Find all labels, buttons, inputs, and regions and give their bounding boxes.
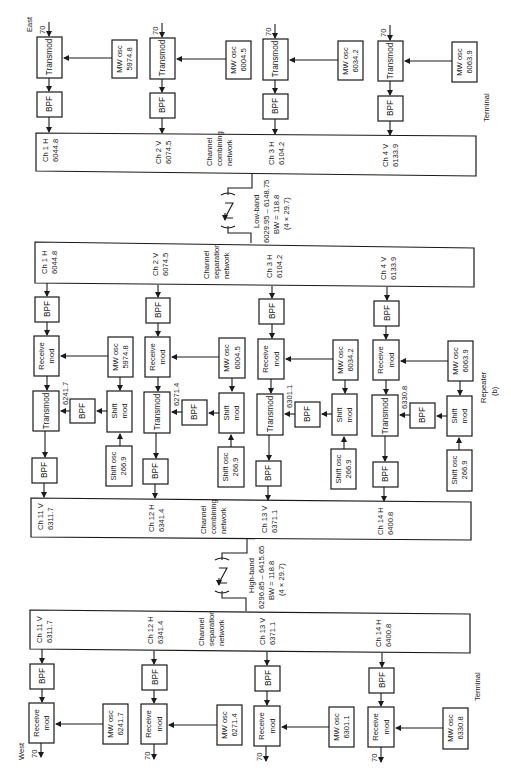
svg-text:network: network: [225, 139, 234, 166]
svg-text:6004.5: 6004.5: [233, 346, 242, 369]
svg-text:6241.7: 6241.7: [116, 712, 125, 735]
low-band-title: Low-band: [252, 195, 261, 228]
shift-output-freq: 6330.8: [400, 386, 409, 409]
svg-text:separation: separation: [207, 611, 216, 646]
svg-text:mod: mod: [155, 717, 164, 732]
svg-text:6341.4: 6341.4: [156, 621, 165, 644]
svg-text:Ch 2 V: Ch 2 V: [154, 140, 163, 164]
svg-text:Channel: Channel: [202, 250, 211, 279]
svg-text:6034.2: 6034.2: [351, 49, 360, 72]
low-band-range: 6029.95 – 6148.75: [262, 180, 271, 243]
svg-text:Ch 12 H: Ch 12 H: [147, 504, 156, 532]
svg-text:Ch 12 H: Ch 12 H: [146, 616, 155, 644]
svg-text:6133.9: 6133.9: [389, 257, 398, 280]
svg-text:BPF: BPF: [43, 301, 52, 317]
svg-text:MW osc: MW osc: [341, 47, 350, 75]
svg-text:MW osc: MW osc: [220, 711, 229, 739]
svg-text:Ch 1 H: Ch 1 H: [40, 250, 49, 274]
svg-text:Ch 14 H: Ch 14 H: [374, 619, 383, 647]
svg-text:Receive: Receive: [144, 710, 153, 737]
low-band-calc: (4 × 29.7): [282, 197, 291, 230]
svg-text:MW osc: MW osc: [332, 713, 341, 741]
svg-text:6400.8: 6400.8: [386, 512, 395, 535]
high-band-hop: High-band 6296.85 – 6415.65 BW = 118.8 (…: [215, 538, 286, 611]
svg-text:mod: mod: [232, 406, 241, 421]
svg-text:6371.1: 6371.1: [268, 622, 277, 645]
svg-text:Transmod: Transmod: [381, 397, 390, 434]
high-band-title: High-band: [247, 558, 256, 593]
shift-output-freq: 6241.7: [61, 382, 70, 405]
svg-text:6330.8: 6330.8: [456, 716, 465, 739]
svg-text:Shift osc: Shift osc: [334, 454, 343, 483]
if-output-label: 70: [30, 750, 39, 758]
svg-text:Receive: Receive: [37, 342, 46, 369]
svg-text:6371.1: 6371.1: [270, 510, 279, 533]
channel-combining-network-low: Ch 1 H 6044.8 Ch 2 V 6074.5 Channel comb…: [36, 131, 476, 176]
svg-text:6400.8: 6400.8: [384, 624, 393, 647]
rx-chain-ch14: BPF Receive mod MW osc 6330.8 70: [368, 653, 468, 762]
svg-text:266.9: 266.9: [231, 457, 240, 476]
svg-text:Receive: Receive: [371, 713, 380, 740]
high-band-calc: (4 × 29.7): [277, 563, 286, 596]
svg-text:Ch 1 H: Ch 1 H: [41, 138, 50, 162]
antenna-link-icon: [215, 558, 229, 593]
svg-text:6104.2: 6104.2: [277, 142, 286, 165]
svg-text:network: network: [217, 619, 226, 646]
high-band-range: 6296.85 – 6415.65: [257, 546, 266, 609]
svg-text:Receive: Receive: [257, 712, 266, 739]
svg-text:Shift osc: Shift osc: [109, 451, 118, 480]
svg-text:6044.8: 6044.8: [51, 139, 60, 162]
svg-text:70: 70: [151, 27, 160, 35]
rx-chain-ch13: BPF Receive mod MW osc 6301.1 70: [254, 652, 354, 761]
svg-text:6311.7: 6311.7: [46, 507, 55, 530]
svg-text:Transmod: Transmod: [386, 42, 395, 79]
svg-text:MW osc: MW osc: [455, 48, 464, 76]
svg-text:BPF: BPF: [378, 672, 387, 688]
svg-text:6074.5: 6074.5: [164, 141, 173, 164]
svg-text:Ch 4 V: Ch 4 V: [379, 256, 388, 280]
svg-text:266.9: 266.9: [460, 460, 469, 479]
svg-text:70: 70: [143, 752, 152, 760]
svg-text:6311.7: 6311.7: [45, 620, 54, 643]
rx-chain-ch12: BPF Receive mod MW osc 6271.4 70: [141, 651, 242, 760]
channel-separation-network-high: Ch 11 V 6311.7 Ch 12 H 6341.4 Channel se…: [30, 610, 470, 653]
svg-text:BPF: BPF: [154, 302, 163, 318]
repeater-chain-2: BPF Receive mod MW osc 6004.5 Transmod 6…: [143, 285, 245, 498]
svg-text:Shift: Shift: [450, 408, 459, 424]
svg-text:BPF: BPF: [151, 669, 160, 685]
svg-text:Shift: Shift: [110, 403, 119, 419]
block-diagram: East Terminal 70 Transmod MW osc 5974.8 …: [0, 0, 511, 781]
svg-text:Transmod: Transmod: [266, 395, 275, 432]
terminal-label-top: Terminal: [482, 93, 491, 122]
west-terminal: Ch 11 V 6311.7 Ch 12 H 6341.4 Channel se…: [17, 610, 482, 762]
svg-text:MW osc: MW osc: [222, 344, 231, 372]
svg-text:Ch 14 H: Ch 14 H: [376, 507, 385, 535]
svg-text:Receive: Receive: [376, 346, 385, 373]
svg-text:combining: combining: [215, 131, 224, 166]
svg-text:6341.4: 6341.4: [157, 509, 166, 532]
svg-text:Ch 3 H: Ch 3 H: [265, 254, 274, 278]
svg-text:BPF: BPF: [158, 97, 167, 113]
svg-text:266.9: 266.9: [119, 456, 128, 475]
repeater-chain-1: BPF Receive mod MW osc 5974.8 Transmod 6…: [32, 283, 133, 497]
svg-text:MW osc: MW osc: [115, 45, 124, 73]
svg-text:266.9: 266.9: [344, 459, 353, 478]
svg-text:mod: mod: [345, 408, 354, 423]
svg-text:6044.8: 6044.8: [50, 251, 59, 274]
svg-text:Channel: Channel: [199, 505, 208, 534]
svg-text:mod: mod: [158, 350, 167, 365]
svg-text:6004.5: 6004.5: [239, 48, 248, 71]
svg-text:70: 70: [255, 753, 264, 761]
svg-text:BPF: BPF: [271, 98, 280, 114]
terminal-label-bottom: Terminal: [473, 672, 482, 701]
svg-text:mod: mod: [120, 404, 129, 419]
svg-text:Ch 13 V: Ch 13 V: [260, 505, 269, 533]
svg-text:Transmod: Transmod: [153, 393, 162, 430]
svg-text:Transmod: Transmod: [271, 40, 280, 77]
tx-chain-ch1: 70 Transmod MW osc 5974.8 BPF: [37, 22, 137, 132]
tx-chain-ch4: 70 Transmod MW osc 6063.9 BPF: [378, 25, 477, 135]
svg-text:Shift osc: Shift osc: [221, 452, 230, 481]
svg-text:Ch 11 V: Ch 11 V: [35, 615, 44, 643]
repeater: Ch 1 H 6044.8 Ch 2 V 6074.5 Channel sepa…: [31, 242, 499, 540]
svg-text:BPF: BPF: [38, 668, 47, 684]
